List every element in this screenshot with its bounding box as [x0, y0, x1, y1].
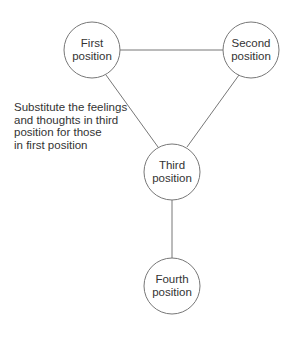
node-fourth-position: Fourth position	[144, 258, 200, 314]
node-third-position: Third position	[144, 144, 200, 200]
annotation-text: Substitute the feelings and thoughts in …	[14, 101, 154, 151]
node-fourth-label-line1: Fourth	[155, 273, 188, 285]
node-second-label-line2: position	[231, 50, 271, 62]
annotation-line: Substitute the feelings	[14, 101, 154, 114]
annotation-line: in first position	[14, 139, 154, 152]
node-third-label-line2: position	[152, 172, 192, 184]
node-first-position: First position	[64, 22, 120, 78]
node-fourth-label-line2: position	[152, 286, 192, 298]
annotation-line: position for those	[14, 126, 154, 139]
edge-second-third	[187, 75, 239, 147]
node-third-label-line1: Third	[159, 159, 185, 171]
node-second-label-line1: Second	[231, 37, 270, 49]
node-second-position: Second position	[223, 22, 279, 78]
annotation-line: and thoughts in third	[14, 114, 154, 127]
node-first-label-line1: First	[81, 37, 104, 49]
positions-diagram: First position Second position Third pos…	[0, 0, 298, 342]
node-first-label-line2: position	[72, 50, 112, 62]
